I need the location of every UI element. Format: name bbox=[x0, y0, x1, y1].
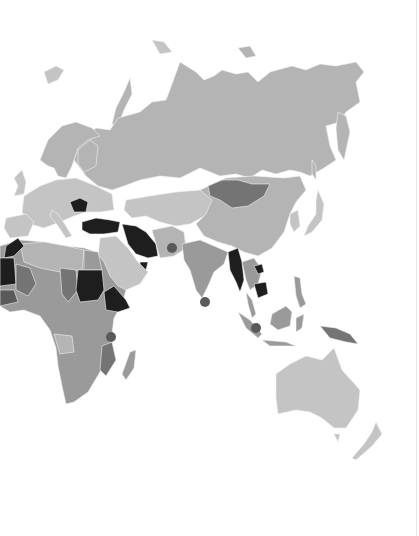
russia bbox=[74, 62, 364, 190]
severnaya-zemlya bbox=[238, 46, 256, 58]
malay-peninsula bbox=[246, 292, 256, 318]
tasmania bbox=[334, 434, 340, 442]
iberia bbox=[4, 214, 34, 238]
turkey bbox=[82, 218, 120, 234]
marker-sri-lanka bbox=[200, 297, 210, 307]
korea bbox=[290, 210, 300, 232]
marker-singapore bbox=[251, 323, 261, 333]
sulawesi bbox=[296, 314, 304, 332]
java bbox=[262, 340, 296, 346]
marker-pakistan bbox=[167, 243, 177, 253]
japan bbox=[304, 190, 324, 236]
borneo bbox=[270, 306, 292, 330]
mozambique bbox=[100, 342, 116, 376]
united-kingdom bbox=[14, 170, 26, 196]
world-choropleth-map bbox=[0, 0, 419, 536]
philippines bbox=[294, 276, 306, 308]
cambodia bbox=[254, 282, 268, 298]
india bbox=[182, 240, 228, 298]
mauritania bbox=[0, 258, 16, 286]
australia bbox=[276, 348, 360, 428]
new-zealand bbox=[352, 422, 382, 460]
kamchatka bbox=[336, 112, 350, 160]
marker-tanzania bbox=[106, 332, 116, 342]
sudan bbox=[76, 270, 104, 302]
svalbard bbox=[44, 66, 64, 84]
myanmar bbox=[228, 248, 244, 292]
papua-new-guinea bbox=[320, 326, 358, 344]
madagascar bbox=[122, 350, 136, 380]
franz-josef-land bbox=[152, 40, 172, 54]
